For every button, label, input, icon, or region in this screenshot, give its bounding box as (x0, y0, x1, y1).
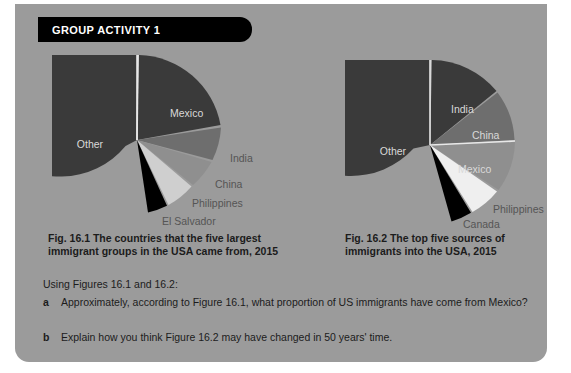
pie2-label-other: Other (380, 145, 407, 157)
activity-banner: GROUP ACTIVITY 1 (38, 17, 252, 42)
pie2-label-china: China (472, 129, 500, 141)
group-activity-panel: GROUP ACTIVITY 1 (15, 4, 547, 362)
pie2-label-canada: Canada (463, 218, 500, 230)
question-a-text: Approximately, according to Figure 16.1,… (61, 295, 533, 309)
questions-intro: Using Figures 16.1 and 16.2: (43, 278, 178, 290)
pie-chart-2: India China Mexico Other Philippines Can… (345, 60, 570, 230)
pie1-label-china: China (215, 178, 243, 190)
question-b-text: Explain how you think Figure 16.2 may ha… (61, 330, 533, 344)
activity-banner-label: GROUP ACTIVITY 1 (52, 24, 160, 36)
question-a-marker: a (43, 295, 61, 309)
activity-page: GROUP ACTIVITY 1 (0, 0, 571, 373)
pie2-label-mexico: Mexico (458, 163, 491, 175)
pie1-label-other: Other (77, 138, 104, 150)
pie1-slice-other (52, 55, 137, 177)
pie2-slice-other (345, 60, 430, 176)
question-b-marker: b (43, 330, 61, 344)
figure-16-1-caption: Fig. 16.1 The countries that the five la… (48, 232, 298, 258)
question-b: b Explain how you think Figure 16.2 may … (43, 330, 533, 344)
pie1-label-philippines: Philippines (192, 197, 243, 209)
pie-chart-1: Mexico Other India China Philippines El … (52, 55, 312, 230)
pie1-label-india: India (230, 152, 253, 164)
figure-16-1: Mexico Other India China Philippines El … (52, 55, 312, 230)
pie1-separators (137, 55, 138, 140)
pie2-label-philippines: Philippines (493, 203, 544, 215)
question-a: a Approximately, according to Figure 16.… (43, 295, 533, 309)
figure-16-2: India China Mexico Other Philippines Can… (345, 60, 570, 230)
figure-16-2-caption: Fig. 16.2 The top five sources of immigr… (345, 232, 560, 258)
pie2-label-india: India (451, 103, 474, 115)
pie1-slice-mexico (137, 55, 221, 140)
pie1-label-el-salvador: El Salvador (162, 215, 216, 227)
pie1-label-mexico: Mexico (170, 107, 203, 119)
